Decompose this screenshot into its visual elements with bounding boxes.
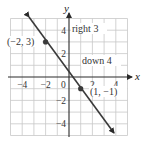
x-tick-label: −4 [17, 80, 27, 90]
graphed-line [29, 17, 114, 133]
run-annotation: right 3 [72, 23, 98, 34]
y-tick-label: −2 [56, 96, 66, 106]
point-b-marker [78, 86, 83, 91]
y-tick-label: −4 [56, 119, 66, 129]
x-axis-label: x [134, 70, 140, 82]
point-a-label: (−2, 3) [7, 36, 34, 48]
point-a-marker [43, 39, 48, 44]
point-b: (1, −1) [78, 86, 127, 98]
y-tick-label: 2 [61, 49, 66, 59]
y-axis-label: y [63, 2, 69, 14]
y-tick-label: 4 [61, 26, 66, 36]
rise-run-annotations: right 3 down 4 [71, 23, 121, 66]
x-tick-label: −2 [41, 80, 51, 90]
x-tick-label: 0 [61, 80, 66, 90]
coordinate-plane: x y −4−2024 42−2−4 right 3 down 4 (−2, 3… [0, 0, 145, 143]
rise-annotation: down 4 [82, 55, 112, 66]
point-a: (−2, 3) [6, 36, 48, 48]
point-b-label: (1, −1) [90, 86, 117, 98]
